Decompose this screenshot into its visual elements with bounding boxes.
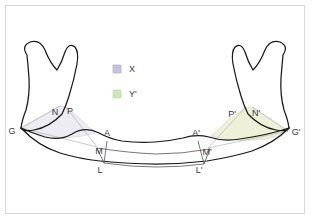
point-label-G-prime: G' [292, 127, 301, 137]
point-label-A-prime: A' [192, 128, 200, 138]
point-label-P-prime: P' [228, 109, 236, 119]
point-label-L-prime: L' [196, 165, 203, 175]
figure-root: G N P A M L A' M' L' P' N' G' X Y' [0, 0, 312, 221]
legend-label-yprime: Y' [129, 89, 137, 99]
point-label-G: G [8, 126, 15, 136]
point-label-N: N [52, 107, 59, 117]
legend: X Y' [113, 64, 137, 99]
point-label-A: A [104, 128, 110, 138]
point-label-P: P [67, 106, 73, 116]
point-label-N-prime: N' [252, 108, 260, 118]
legend-swatch-yprime [113, 90, 121, 98]
region-yprime-fill [211, 107, 288, 140]
point-label-L: L [97, 165, 102, 175]
point-labels: G N P A M L A' M' L' P' N' G' [8, 106, 300, 175]
band-lines [97, 141, 210, 167]
legend-swatch-x [113, 65, 121, 73]
legend-label-x: X [129, 64, 135, 74]
point-label-M-prime: M' [202, 147, 211, 157]
point-label-M: M [95, 146, 103, 156]
mandible-diagram: G N P A M L A' M' L' P' N' G' X Y' [0, 0, 312, 221]
